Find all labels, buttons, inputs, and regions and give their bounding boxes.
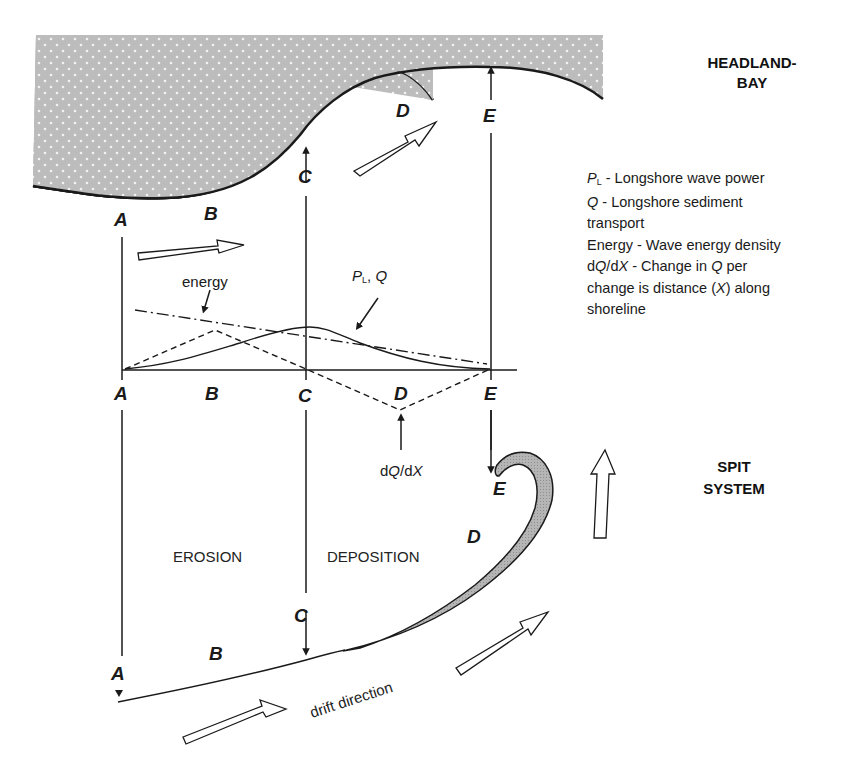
- hollow-arrow-drift-right: [456, 612, 548, 675]
- legend: PL - Longshore wave power Q - Longshore …: [587, 168, 847, 321]
- hollow-arrow-B: [138, 240, 244, 260]
- hollow-arrow-drift-left: [183, 700, 286, 744]
- label-axis-C: C: [298, 385, 312, 406]
- headland-land-right: [33, 35, 603, 198]
- drift-direction-label: drift direction: [308, 678, 395, 721]
- legend-energy: Energy - Wave energy density: [587, 235, 847, 257]
- label-axis-E: E: [484, 383, 498, 404]
- label-spit-E: E: [493, 478, 507, 499]
- title-spit-system: SPIT: [717, 458, 750, 475]
- label-axis-B: B: [205, 383, 219, 404]
- spit-shoreline: [118, 650, 345, 702]
- pl-q-curve: [125, 327, 490, 369]
- legend-q: Q - Longshore sediment: [587, 192, 847, 214]
- legend-pl: PL - Longshore wave power: [587, 168, 847, 192]
- label-top-A: A: [113, 209, 128, 230]
- label-top-E: E: [483, 105, 497, 126]
- legend-dqdx: dQ/dX - Change in Q per: [587, 256, 847, 278]
- hollow-arrow-spit-up: [591, 450, 615, 538]
- hollow-arrow-D: [354, 122, 436, 176]
- small-arrow-A: [115, 690, 123, 697]
- svg-text:BAY: BAY: [737, 74, 767, 91]
- erosion-label: EROSION: [173, 548, 242, 565]
- label-spit-D: D: [467, 526, 481, 547]
- title-headland-bay: HEADLAND-: [707, 54, 796, 71]
- deposition-label: DEPOSITION: [327, 548, 420, 565]
- dqdx-label: dQ/dX: [380, 462, 424, 479]
- label-spit-A: A: [110, 663, 125, 684]
- pl-q-label: PL, Q: [352, 267, 387, 285]
- label-top-D: D: [396, 100, 410, 121]
- label-axis-A: A: [113, 383, 128, 404]
- label-spit-B: B: [209, 643, 223, 664]
- energy-label: energy: [182, 273, 228, 290]
- label-axis-D: D: [394, 383, 408, 404]
- label-top-C: C: [298, 166, 312, 187]
- coastal-diagram: HEADLAND- BAY SPIT SYSTEM A B C D E A B …: [0, 0, 867, 778]
- energy-curve: [135, 310, 487, 364]
- label-spit-C: C: [294, 605, 308, 626]
- label-top-B: B: [204, 203, 218, 224]
- svg-text:SYSTEM: SYSTEM: [703, 480, 765, 497]
